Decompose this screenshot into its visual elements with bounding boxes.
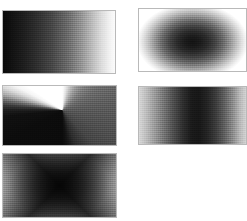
gradient-field-diamond-core-centre xyxy=(3,154,116,217)
gradient-field-diamond-core xyxy=(3,154,116,217)
panel-radial-blob xyxy=(138,8,247,72)
gradient-field-conic-singularity xyxy=(3,86,116,145)
gradient-field-linear-horizontal xyxy=(3,11,115,73)
gradient-field-radial-blob xyxy=(139,9,246,71)
gradient-field-horizontal-band xyxy=(139,87,246,144)
panel-diamond-core xyxy=(2,153,117,218)
panel-linear-horizontal xyxy=(2,10,116,74)
panel-conic-singularity xyxy=(2,85,117,146)
gradient-panel-figure xyxy=(0,0,247,221)
panel-horizontal-band xyxy=(138,86,247,145)
